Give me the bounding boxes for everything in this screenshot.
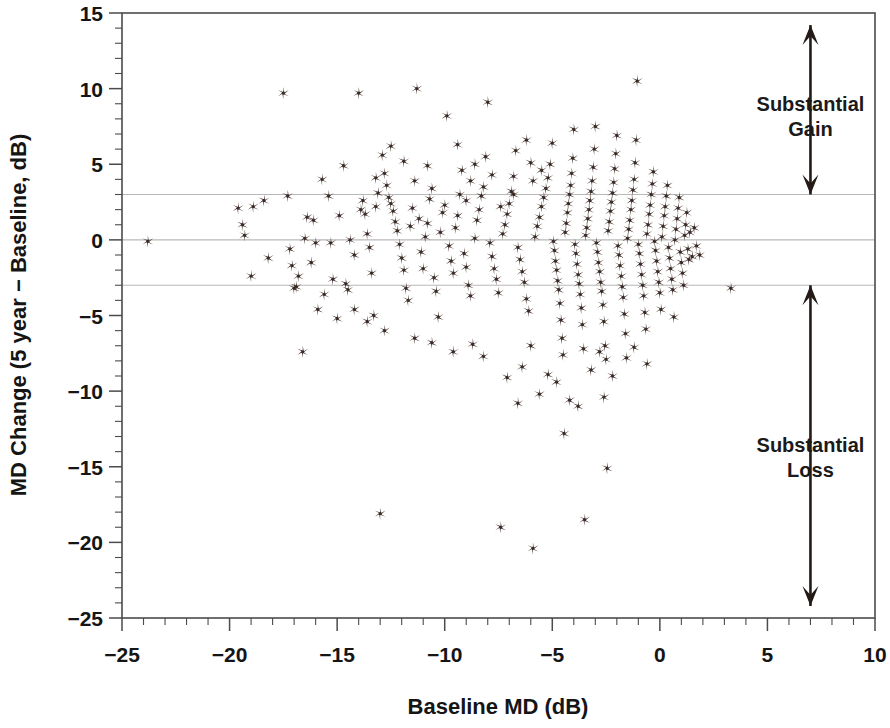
data-point <box>530 231 541 243</box>
data-point <box>600 340 611 352</box>
data-point <box>379 167 390 179</box>
data-point <box>557 332 568 344</box>
data-point <box>534 388 545 400</box>
data-point <box>504 197 515 209</box>
data-point <box>362 228 373 240</box>
data-point <box>561 217 572 229</box>
data-point <box>469 158 480 170</box>
data-point <box>556 314 567 326</box>
data-point <box>358 194 369 206</box>
data-point <box>616 270 627 282</box>
data-point <box>543 368 554 380</box>
x-tick-label: 5 <box>762 643 774 666</box>
data-point <box>568 123 579 135</box>
data-point <box>599 391 610 403</box>
data-point <box>654 287 665 299</box>
data-point <box>581 222 592 234</box>
data-point <box>551 376 562 388</box>
data-point <box>386 140 397 152</box>
data-point <box>591 237 602 249</box>
data-point <box>435 226 446 238</box>
data-point <box>282 190 293 202</box>
data-point <box>439 199 450 211</box>
data-point <box>327 273 338 285</box>
data-point <box>437 206 448 218</box>
data-point <box>512 241 523 253</box>
y-axis-title: MD Change (5 year − Baseline, dB) <box>6 134 31 497</box>
data-point <box>680 219 691 231</box>
data-point <box>566 167 577 179</box>
data-point <box>375 507 386 519</box>
data-point <box>634 247 645 259</box>
data-point <box>592 246 603 258</box>
data-point <box>648 166 659 178</box>
data-point <box>595 276 606 288</box>
data-point <box>575 288 586 300</box>
data-point <box>619 308 630 320</box>
data-point <box>409 175 420 187</box>
data-point <box>641 323 652 335</box>
data-point <box>517 265 528 277</box>
data-point <box>623 223 634 235</box>
data-point <box>610 147 621 159</box>
data-point <box>559 427 570 439</box>
data-point <box>465 290 476 302</box>
data-point <box>631 134 642 146</box>
data-point <box>579 513 590 525</box>
data-point <box>392 225 403 237</box>
data-point <box>664 252 675 264</box>
data-point <box>565 179 576 191</box>
data-point <box>540 182 551 194</box>
data-point <box>665 262 676 274</box>
data-point <box>534 211 545 223</box>
data-point <box>500 219 511 231</box>
y-tick-label: 15 <box>80 2 104 25</box>
data-point <box>614 249 625 261</box>
data-point <box>599 315 610 327</box>
data-point <box>502 371 513 383</box>
data-point <box>259 194 270 206</box>
data-point <box>562 206 573 218</box>
data-point <box>602 462 613 474</box>
data-point <box>480 150 491 162</box>
data-point <box>590 120 601 132</box>
data-point <box>671 223 682 235</box>
data-point <box>589 143 600 155</box>
data-point <box>577 318 588 330</box>
data-point <box>368 309 379 321</box>
data-point <box>658 220 669 232</box>
data-point <box>418 262 429 274</box>
y-tick-label: 0 <box>91 229 103 252</box>
data-point <box>549 244 560 256</box>
data-point <box>284 243 295 255</box>
data-point <box>668 311 679 323</box>
data-point <box>657 231 668 243</box>
y-tick-label: 10 <box>80 78 103 101</box>
data-point <box>642 358 653 370</box>
data-point <box>681 206 692 218</box>
data-point <box>293 270 304 282</box>
data-point <box>605 205 616 217</box>
data-point <box>489 262 500 274</box>
data-point <box>677 267 688 279</box>
data-point <box>523 305 534 317</box>
x-tick-label: −20 <box>212 643 248 666</box>
data-point <box>429 271 440 283</box>
scatter-figure: −25−20−15−10−50510 151050−5−10−15−20−25 … <box>0 0 890 728</box>
data-point <box>495 200 506 212</box>
data-points <box>142 75 736 555</box>
data-point <box>621 352 632 364</box>
data-point <box>452 209 463 221</box>
data-point <box>636 268 647 280</box>
data-point <box>573 268 584 280</box>
data-point <box>585 194 596 206</box>
data-point <box>521 134 532 146</box>
data-point <box>550 255 561 267</box>
data-point <box>401 282 412 294</box>
data-point <box>532 220 543 232</box>
data-point <box>398 264 409 276</box>
x-axis-title: Baseline MD (dB) <box>408 694 589 719</box>
data-point <box>371 200 382 212</box>
data-point <box>338 160 349 172</box>
x-tick-label: −15 <box>319 643 355 666</box>
